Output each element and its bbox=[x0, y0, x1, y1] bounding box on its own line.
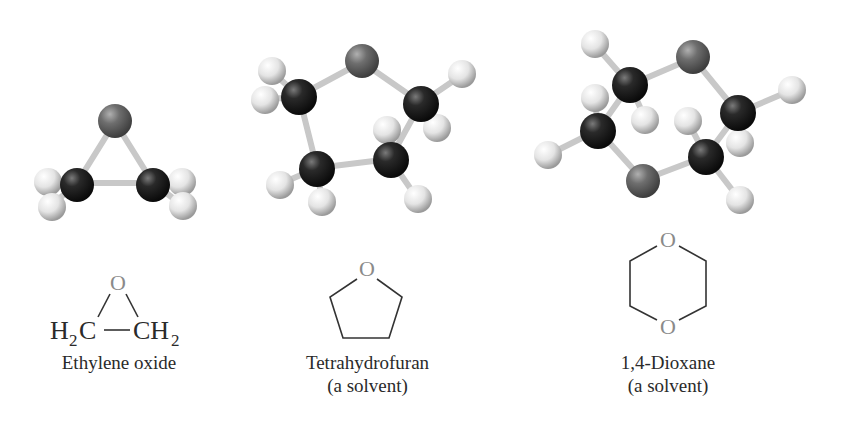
ring-oxygen-label: O bbox=[359, 256, 375, 281]
tetrahydrofuran-3d-model bbox=[251, 44, 476, 216]
tetrahydrofuran-name: Tetrahydrofuran bbox=[280, 352, 455, 374]
ring-oxygen-label: O bbox=[110, 270, 126, 295]
ring-oxygen-bottom-label: O bbox=[660, 314, 676, 339]
ethylene-oxide-3d-model bbox=[34, 104, 197, 221]
tetrahydrofuran-note: (a solvent) bbox=[280, 375, 455, 397]
ethylene-oxide-name: Ethylene oxide bbox=[40, 352, 198, 374]
formula-left-sub: 2 bbox=[69, 331, 78, 350]
formula-left-h: H bbox=[50, 316, 69, 345]
ring-oxygen-top-label: O bbox=[660, 227, 676, 252]
formula-right-sub: 2 bbox=[171, 331, 180, 350]
formula-right-ch: CH bbox=[133, 316, 169, 345]
figure: O H 2 C CH 2 O O O Ethylene oxide Tetrah… bbox=[0, 0, 842, 424]
formula-left-c: C bbox=[79, 316, 96, 345]
dioxane-structure: O O bbox=[630, 227, 706, 339]
dioxane-note: (a solvent) bbox=[600, 375, 736, 397]
dioxane-3d-model bbox=[534, 30, 806, 214]
dioxane-name: 1,4-Dioxane bbox=[600, 352, 736, 374]
tetrahydrofuran-structure: O bbox=[330, 256, 402, 338]
